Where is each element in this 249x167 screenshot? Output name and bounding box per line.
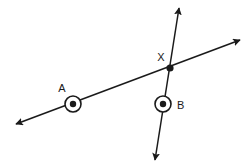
point-x-dot <box>166 64 173 71</box>
point-a-dot <box>70 101 76 107</box>
geometry-diagram: A B X <box>0 0 249 167</box>
line-through-A-and-X <box>16 40 240 124</box>
point-a <box>65 96 81 112</box>
line-through-X-and-B <box>155 8 179 160</box>
point-a-label: A <box>58 82 66 94</box>
geometry-canvas: A B X <box>0 0 249 167</box>
point-x-label: X <box>157 51 165 63</box>
point-b <box>155 96 171 112</box>
point-b-label: B <box>177 99 184 111</box>
point-b-dot <box>160 101 166 107</box>
